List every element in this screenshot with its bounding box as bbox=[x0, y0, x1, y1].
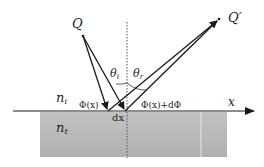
point-q bbox=[82, 35, 85, 38]
label-n-i: ni bbox=[56, 90, 67, 106]
label-x-axis: x bbox=[228, 95, 235, 109]
incident-angle-arc bbox=[116, 83, 127, 84]
reflected-ray-1 bbox=[108, 21, 217, 111]
label-q: Q bbox=[72, 16, 83, 31]
label-theta-r: θr bbox=[133, 67, 144, 81]
reflected-ray-2 bbox=[125, 21, 217, 111]
label-phase-right: Φ(x)+dΦ bbox=[141, 100, 181, 110]
label-theta-i: θi bbox=[110, 67, 119, 81]
point-q-prime bbox=[218, 18, 221, 21]
lower-medium-region bbox=[40, 112, 227, 157]
reflection-diagram: Q Q′ θi θr ni nt Φ(x) Φ(x)+dΦ dx x bbox=[0, 0, 264, 167]
label-q-prime: Q′ bbox=[228, 10, 242, 25]
label-phase-left: Φ(x) bbox=[79, 100, 98, 110]
label-dx: dx bbox=[112, 112, 124, 123]
